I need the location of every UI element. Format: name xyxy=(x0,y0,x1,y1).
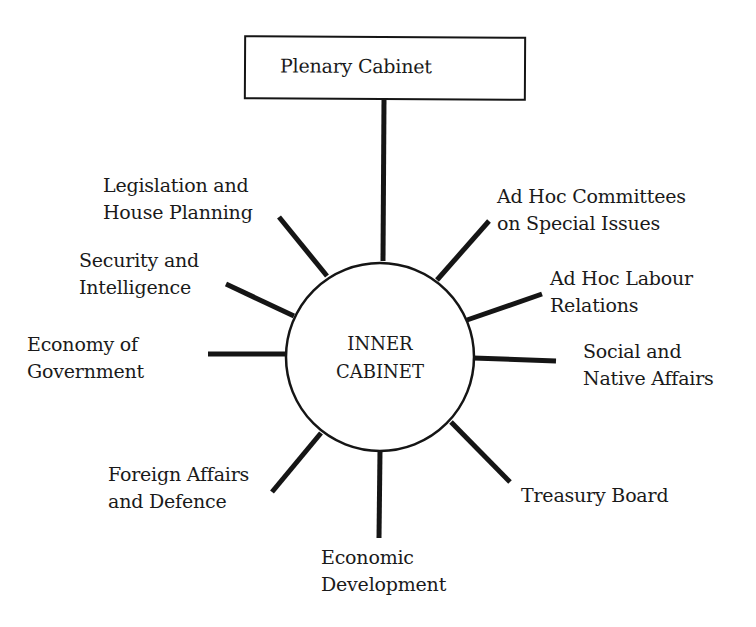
committee-line: Development xyxy=(321,571,446,598)
committee-line: Ad Hoc Labour xyxy=(550,265,693,292)
committee-line: on Special Issues xyxy=(497,210,686,237)
committee-line: Social and xyxy=(583,338,714,365)
committee-adhoc-special: Ad Hoc Committees on Special Issues xyxy=(497,183,686,237)
committee-line: Intelligence xyxy=(79,274,199,301)
committee-social-native: Social and Native Affairs xyxy=(583,338,714,392)
committee-line: Relations xyxy=(550,292,693,319)
committee-line: Foreign Affairs xyxy=(108,461,249,488)
committee-line: Treasury Board xyxy=(521,482,668,509)
plenary-cabinet-label: Plenary Cabinet xyxy=(280,54,432,77)
committee-legislation: Legislation and House Planning xyxy=(103,172,253,226)
spoke-economic-dev xyxy=(379,451,380,538)
committee-line: Ad Hoc Committees xyxy=(497,183,686,210)
committee-foreign: Foreign Affairs and Defence xyxy=(108,461,249,515)
committee-line: Native Affairs xyxy=(583,365,714,392)
inner-cabinet-line2: CABINET xyxy=(336,358,424,386)
inner-cabinet-line1: INNER xyxy=(336,330,424,358)
committee-line: Economy of xyxy=(27,331,144,358)
plenary-cabinet-node: Plenary Cabinet xyxy=(244,35,526,100)
spoke-treasury xyxy=(451,422,510,482)
connector-plenary xyxy=(383,100,384,261)
committee-line: House Planning xyxy=(103,199,253,226)
committee-economic-dev: Economic Development xyxy=(321,544,446,598)
spoke-legislation xyxy=(279,217,327,276)
inner-cabinet-label: INNER CABINET xyxy=(336,330,424,386)
committee-security: Security and Intelligence xyxy=(79,247,199,301)
committee-labour: Ad Hoc Labour Relations xyxy=(550,265,693,319)
committee-line: Economic xyxy=(321,544,446,571)
spoke-social-native xyxy=(473,358,556,361)
spoke-foreign xyxy=(272,433,321,492)
spoke-labour xyxy=(467,294,542,320)
spoke-security xyxy=(226,284,294,316)
committee-economy-govt: Economy of Government xyxy=(27,331,144,385)
spoke-adhoc-special xyxy=(437,221,489,280)
committee-line: Government xyxy=(27,358,144,385)
committee-line: Legislation and xyxy=(103,172,253,199)
committee-treasury: Treasury Board xyxy=(521,482,668,509)
committee-line: Security and xyxy=(79,247,199,274)
committee-line: and Defence xyxy=(108,488,249,515)
